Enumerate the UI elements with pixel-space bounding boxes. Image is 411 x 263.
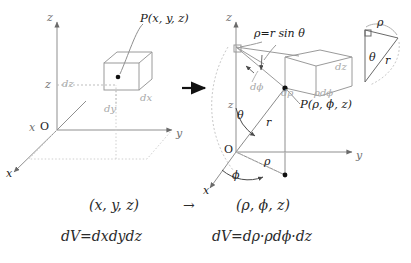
right-axis-label-x: x <box>203 185 209 196</box>
radius-r-label: r <box>266 117 271 128</box>
left-axis-label-y: y <box>176 128 182 139</box>
phi-angle-label: ϕ <box>232 170 240 181</box>
left-axis-label-x: x <box>6 168 12 179</box>
inset-r-label: r <box>385 55 390 66</box>
wedge-top-lines <box>234 45 299 88</box>
right-cube-edge-dphi: dϕ <box>250 82 263 92</box>
right-cube-edge-rhodphi: ρdϕ <box>314 88 333 98</box>
radius-rho-label: ρ <box>264 156 270 167</box>
left-cube-edge-dx: dx <box>140 93 152 103</box>
figure-canvas: z y x O x z P(x, y, z) dz dx dy z y x O … <box>0 0 411 263</box>
radial-projection <box>236 88 285 175</box>
right-height-label-z: z <box>228 100 233 110</box>
theta-angle-label: θ <box>237 110 244 121</box>
inset-rho-label: ρ <box>377 17 383 28</box>
left-point-marker <box>116 75 121 80</box>
left-cube-edge-dz: dz <box>62 79 74 89</box>
relation-leader <box>240 42 262 47</box>
right-origin-label: O <box>224 144 233 155</box>
left-origin-label: O <box>40 121 49 132</box>
left-height-label-z: z <box>45 79 51 90</box>
equation-left-volume: dV=dxdydz <box>61 229 142 243</box>
equation-right-coords: (ρ, ϕ, z) <box>236 198 290 212</box>
radial-rays <box>236 88 285 175</box>
left-axis-label-z: z <box>47 12 53 23</box>
right-cube-edge-drho: dρ <box>281 88 293 98</box>
right-foot-marker <box>283 173 288 178</box>
rho-r-sin-theta-label: ρ=r sin θ <box>254 28 305 39</box>
equation-transform-arrow: → <box>183 198 195 212</box>
equation-right-volume: dV=dρ·ρdϕ·dz <box>212 229 312 243</box>
left-point-leader <box>120 24 143 74</box>
right-cube-edge-dz: dz <box>335 62 347 72</box>
left-volume-cube <box>104 52 152 90</box>
diagram-artwork <box>0 0 411 263</box>
left-cube-edge-dy: dy <box>104 104 116 114</box>
right-axis-label-y: y <box>356 150 362 161</box>
phi-arc <box>222 170 263 180</box>
left-point-label: P(x, y, z) <box>140 13 189 25</box>
inset-theta-label: θ <box>369 52 376 63</box>
equation-left-coords: (x, y, z) <box>89 198 139 212</box>
right-axis-label-z: z <box>226 12 232 23</box>
right-point-label: P(ρ, ϕ, z) <box>300 99 352 111</box>
left-x-near-origin-label: x <box>29 122 35 133</box>
